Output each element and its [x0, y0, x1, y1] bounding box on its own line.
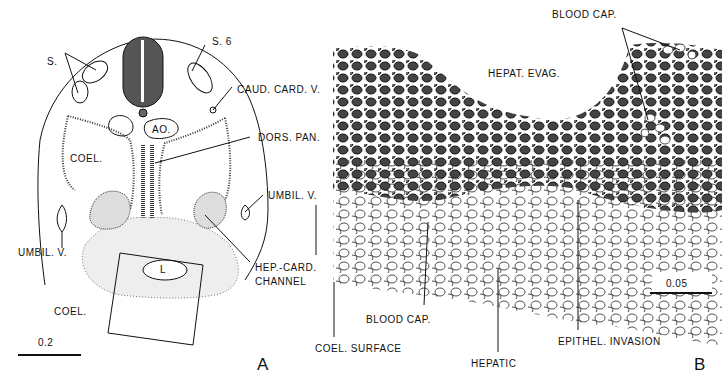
label-dors-pan: DORS. PAN.	[258, 132, 320, 143]
gut-loop-right	[194, 192, 226, 228]
label-caud-card-v: CAUD. CARD. V.	[237, 84, 320, 95]
label-coel-bottom: COEL.	[54, 306, 87, 317]
panel-b-letter: B	[694, 355, 705, 374]
label-s6: S. 6	[212, 36, 232, 47]
panel-b: BLOOD CAP. HEPAT. EVAG. BLOOD CAP. COEL.…	[315, 9, 722, 374]
umbil-vein-right	[241, 205, 249, 220]
label-hep-card-1: HEP.-CARD.	[255, 262, 317, 273]
somite-left-2	[72, 81, 88, 103]
scale-bar-b-label: 0.05	[666, 278, 687, 289]
label-s: S.	[47, 56, 57, 67]
label-lumen: L	[160, 264, 166, 275]
label-hepatic: HEPATIC	[471, 358, 516, 369]
liver-mass	[82, 217, 238, 298]
scale-bar-a-label: 0.2	[38, 337, 53, 348]
notochord	[139, 109, 147, 117]
neural-tube	[123, 37, 163, 107]
label-hep-card-2: CHANNEL	[255, 276, 306, 287]
label-blood-cap-top: BLOOD CAP.	[552, 9, 617, 20]
label-umbil-v-right: UMBIL. V.	[268, 190, 317, 201]
label-coel-surface: COEL. SURFACE	[315, 343, 402, 354]
label-ao: AO.	[152, 124, 171, 135]
gut-loop-left	[90, 191, 130, 229]
umbil-vein-left	[57, 205, 66, 232]
label-epithel-invasion: EPITHEL. INVASION	[558, 336, 661, 347]
label-coel-top: COEL.	[70, 153, 103, 164]
somite-right	[183, 59, 217, 97]
label-umbil-v-left: UMBIL. V.	[18, 247, 67, 258]
panel-a-letter: A	[257, 355, 269, 374]
figure-canvas: S. S. 6 CAUD. CARD. V. AO. DORS. PAN. CO…	[0, 0, 728, 381]
label-hepat-evag: HEPAT. EVAG.	[488, 68, 560, 79]
label-blood-cap-bottom: BLOOD CAP.	[366, 314, 431, 325]
panel-a: S. S. 6 CAUD. CARD. V. AO. DORS. PAN. CO…	[18, 36, 320, 374]
somite-left-1	[78, 57, 111, 88]
